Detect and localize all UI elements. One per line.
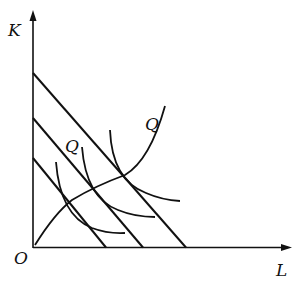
production-diagram: K L O Q Q — [0, 0, 300, 295]
x-axis-label: L — [275, 260, 287, 280]
y-axis-arrow-icon — [30, 10, 37, 21]
origin-label: O — [14, 248, 28, 268]
isoquant-label-right: Q — [145, 114, 159, 134]
x-axis-arrow-icon — [281, 244, 292, 251]
isoquant-high — [110, 130, 180, 201]
isocost-line-mid — [33, 118, 143, 248]
isocost-lines — [33, 73, 186, 248]
y-axis-label: K — [7, 20, 22, 40]
isoquant-label-left: Q — [65, 136, 79, 156]
isocost-line-high — [33, 73, 186, 248]
isoquant-mid — [82, 147, 155, 217]
